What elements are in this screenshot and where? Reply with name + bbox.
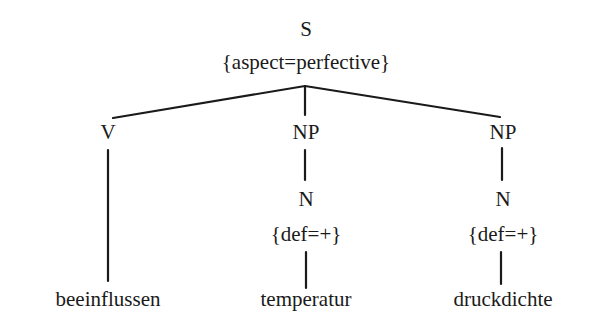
node-np-1: NP bbox=[293, 120, 320, 144]
node-n-2: N bbox=[495, 187, 510, 211]
node-n-1: N bbox=[298, 187, 313, 211]
edge-s-np2 bbox=[305, 86, 500, 117]
node-np-2: NP bbox=[490, 120, 517, 144]
node-n-2-features: {def=+} bbox=[468, 222, 539, 246]
leaf-beeinflussen: beeinflussen bbox=[56, 287, 161, 311]
node-s: S bbox=[300, 17, 312, 41]
leaf-temperatur: temperatur bbox=[261, 287, 352, 311]
leaf-druckdichte: druckdichte bbox=[453, 287, 552, 311]
node-n-1-features: {def=+} bbox=[271, 222, 342, 246]
node-v: V bbox=[100, 120, 115, 144]
edge-s-v bbox=[113, 86, 305, 118]
node-s-features: {aspect=perfective} bbox=[222, 50, 390, 74]
